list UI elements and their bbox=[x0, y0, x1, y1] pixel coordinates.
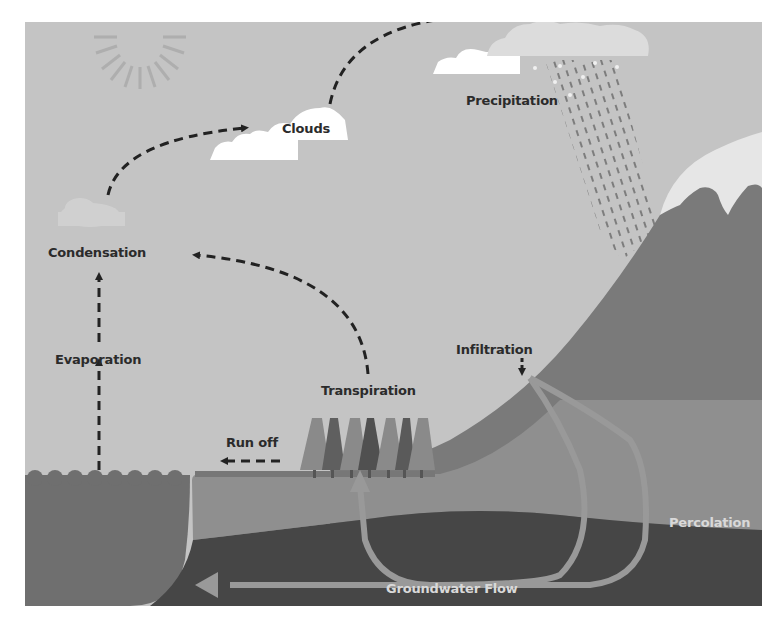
label-evaporation: Evaporation bbox=[55, 352, 141, 367]
label-precipitation: Precipitation bbox=[466, 93, 558, 108]
water-cycle-diagram bbox=[0, 0, 781, 627]
label-run-off: Run off bbox=[226, 435, 278, 450]
label-transpiration: Transpiration bbox=[321, 383, 416, 398]
label-clouds: Clouds bbox=[282, 121, 330, 136]
label-condensation: Condensation bbox=[48, 245, 146, 260]
label-groundwater-flow: Groundwater Flow bbox=[386, 581, 518, 596]
label-infiltration: Infiltration bbox=[456, 342, 533, 357]
ocean bbox=[25, 475, 190, 606]
label-percolation: Percolation bbox=[669, 515, 750, 530]
